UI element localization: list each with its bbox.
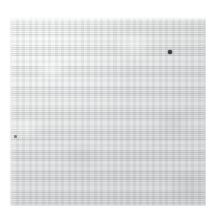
fabric-swatch bbox=[9, 17, 206, 206]
dark-fleck-upper-right bbox=[168, 50, 172, 54]
faint-fleck-left bbox=[14, 135, 17, 138]
fabric-edge-right bbox=[204, 17, 206, 206]
fabric-edge-bottom bbox=[9, 204, 206, 206]
fabric-edge-shading bbox=[9, 17, 206, 206]
fabric-edge-left bbox=[9, 17, 12, 206]
fabric-edge-top bbox=[9, 17, 206, 20]
image-canvas bbox=[0, 0, 215, 220]
